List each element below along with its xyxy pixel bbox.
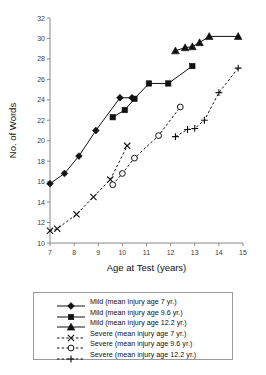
- legend-item-5: Severe (mean injury age 12.2 yr.): [34, 350, 232, 360]
- data-point: [110, 115, 115, 120]
- data-point: [235, 65, 242, 72]
- legend-key-filled-triangle-icon: [56, 318, 86, 328]
- data-point: [177, 104, 183, 110]
- legend-label: Severe (mean injury age 9.6 yr.): [90, 339, 192, 349]
- y-tick-label: 22: [37, 117, 45, 124]
- data-point: [166, 81, 171, 86]
- y-tick-label: 18: [37, 158, 45, 165]
- data-point: [110, 182, 116, 188]
- data-point: [122, 107, 127, 112]
- x-tick-label: 8: [72, 249, 76, 256]
- series-line: [175, 68, 238, 137]
- x-tick-label: 11: [143, 249, 150, 256]
- x-tick-label: 10: [118, 249, 126, 256]
- legend-item-0: Mild (mean injury age 7 yr.): [34, 297, 232, 307]
- series-2: [172, 33, 242, 54]
- chart-page: 101214161820222426283032789101112131415A…: [0, 0, 266, 375]
- legend-marker: [68, 355, 75, 362]
- data-point: [189, 43, 197, 50]
- y-tick-label: 20: [37, 137, 45, 144]
- legend-item-3: Severe (mean injury age 7 yr.): [34, 329, 232, 339]
- y-axis-title: No. of Words: [7, 103, 18, 159]
- data-point: [132, 155, 138, 161]
- data-point: [156, 133, 162, 139]
- data-point: [117, 94, 124, 101]
- legend-label: Mild (mean injury age 12.2 yr.): [90, 318, 187, 328]
- legend-key-filled-diamond-icon: [56, 297, 86, 307]
- chart-legend: Mild (mean injury age 7 yr.)Mild (mean i…: [33, 292, 233, 360]
- x-tick-label: 9: [96, 249, 100, 256]
- y-tick-label: 14: [37, 199, 45, 206]
- data-point: [196, 39, 204, 46]
- legend-item-1: Mild (mean injury age 9.6 yr.): [34, 308, 232, 318]
- y-tick-label: 16: [37, 178, 45, 185]
- legend-item-2: Mild (mean injury age 12.2 yr.): [34, 318, 232, 328]
- y-tick-label: 10: [37, 240, 45, 247]
- legend-item-4: Severe (mean injury age 9.6 yr.): [34, 339, 232, 349]
- data-point: [90, 194, 96, 200]
- plot-area: 101214161820222426283032789101112131415A…: [0, 0, 266, 282]
- y-tick-label: 28: [37, 55, 45, 62]
- series-line: [50, 98, 132, 184]
- series-5: [172, 65, 242, 140]
- data-point: [172, 133, 179, 140]
- y-tick-label: 30: [37, 35, 45, 42]
- data-point: [190, 63, 195, 68]
- x-axis-title: Age at Test (years): [107, 262, 187, 273]
- data-point: [215, 89, 222, 96]
- data-point: [132, 96, 137, 101]
- x-tick-label: 13: [191, 249, 199, 256]
- x-tick-label: 14: [215, 249, 223, 256]
- data-point: [73, 211, 79, 217]
- data-point: [119, 171, 125, 177]
- x-tick-label: 12: [167, 249, 175, 256]
- data-point: [54, 226, 60, 232]
- x-tick-label: 15: [239, 249, 247, 256]
- data-point: [184, 126, 191, 133]
- series-line: [50, 146, 127, 231]
- legend-key-filled-square-icon: [56, 308, 86, 318]
- data-point: [124, 143, 130, 149]
- series-3: [47, 143, 130, 234]
- data-point: [92, 127, 99, 134]
- y-tick-label: 24: [37, 96, 45, 103]
- legend-label: Severe (mean injury age 7 yr.): [90, 329, 186, 339]
- x-tick-label: 7: [48, 249, 52, 256]
- legend-key-plus-icon: [56, 350, 86, 360]
- series-4: [110, 104, 183, 188]
- y-tick-label: 12: [37, 219, 45, 226]
- chart-svg: 101214161820222426283032789101112131415A…: [0, 0, 266, 282]
- legend-key-open-circle-icon: [56, 339, 86, 349]
- legend-label: Mild (mean injury age 7 yr.): [90, 297, 177, 307]
- series-1: [110, 63, 195, 120]
- legend-label: Mild (mean injury age 9.6 yr.): [90, 308, 183, 318]
- data-point: [146, 81, 151, 86]
- legend-label: Severe (mean injury age 12.2 yr.): [90, 350, 196, 360]
- y-tick-label: 26: [37, 76, 45, 83]
- legend-key-cross-x-icon: [56, 329, 86, 339]
- y-tick-label: 32: [37, 15, 45, 22]
